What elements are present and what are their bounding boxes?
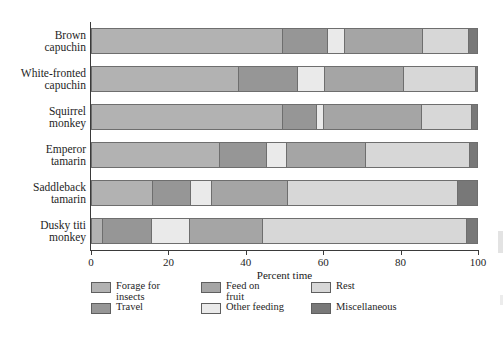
legend-swatch-forage-for-insects <box>91 282 111 293</box>
legend-item-feed-on-fruit[interactable]: Feed on fruit <box>201 281 311 302</box>
stacked-bar-chart-figure: BrowncapuchinWhite-frontedcapuchinSquirr… <box>0 0 503 343</box>
y-axis-label-line: monkey <box>0 117 86 130</box>
x-axis-tick-label: 0 <box>71 256 111 268</box>
bar-segment-feed-on-fruit <box>211 180 287 206</box>
y-axis-label-line: tamarin <box>0 155 86 168</box>
legend-item-travel[interactable]: Travel <box>91 302 201 314</box>
bar-segment-forage-for-insects <box>91 218 102 244</box>
y-axis-label-line: White-fronted <box>0 67 86 80</box>
x-axis-tick <box>91 250 92 255</box>
legend-swatch-rest <box>311 282 331 293</box>
x-axis-tick-label: 100 <box>458 256 498 268</box>
y-axis-label-brown-capuchin: Browncapuchin <box>0 29 86 54</box>
bar-row <box>91 218 478 244</box>
legend-swatch-other-feeding <box>201 303 221 314</box>
y-axis-label-line: Brown <box>0 29 86 42</box>
bar-segment-other-feeding <box>151 218 189 244</box>
plot-area <box>91 22 478 250</box>
bar-segment-forage-for-insects <box>91 28 282 54</box>
bar-segment-feed-on-fruit <box>189 218 262 244</box>
bar-segment-travel <box>238 66 297 92</box>
y-axis-label-emperor-tamarin: Emperortamarin <box>0 143 86 168</box>
bar-segment-miscellaneous <box>471 104 478 130</box>
x-axis-tick-label: 20 <box>148 256 188 268</box>
bar-row <box>91 142 478 168</box>
y-axis-label-line: Squirrel <box>0 105 86 118</box>
bar-segment-miscellaneous <box>466 218 478 244</box>
bar-segment-travel <box>282 28 327 54</box>
bar-segment-forage-for-insects <box>91 66 238 92</box>
chart-legend: Forage for insectsFeed on fruitRestTrave… <box>91 281 421 323</box>
x-axis-tick <box>401 250 402 255</box>
x-axis-tick <box>323 250 324 255</box>
legend-item-forage-for-insects[interactable]: Forage for insects <box>91 281 201 302</box>
bar-row <box>91 180 478 206</box>
bar-segment-other-feeding <box>316 104 323 130</box>
y-axis-category-labels: BrowncapuchinWhite-frontedcapuchinSquirr… <box>0 22 86 250</box>
x-axis-tick <box>246 250 247 255</box>
bar-segment-miscellaneous <box>475 66 478 92</box>
y-axis-label-line: monkey <box>0 231 86 244</box>
legend-label-feed-on-fruit: Feed on fruit <box>226 281 260 302</box>
x-axis-tick <box>478 250 479 255</box>
y-axis-label-line: capuchin <box>0 79 86 92</box>
legend-item-rest[interactable]: Rest <box>311 281 421 293</box>
legend-label-forage-for-insects: Forage for insects <box>116 281 160 302</box>
legend-label-rest: Rest <box>336 281 355 292</box>
y-axis-label-line: tamarin <box>0 193 86 206</box>
bar-segment-rest <box>403 66 475 92</box>
legend-swatch-travel <box>91 303 111 314</box>
bar-segment-rest <box>421 104 471 130</box>
y-axis-label-line: capuchin <box>0 41 86 54</box>
bar-segment-travel <box>282 104 316 130</box>
bar-segment-travel <box>152 180 190 206</box>
x-axis-tick-label: 80 <box>381 256 421 268</box>
legend-label-travel: Travel <box>116 302 143 313</box>
legend-label-other-feeding: Other feeding <box>226 302 284 313</box>
bar-segment-forage-for-insects <box>91 104 282 130</box>
x-axis-tick <box>168 250 169 255</box>
bar-segment-travel <box>219 142 266 168</box>
x-axis-tick-label: 60 <box>303 256 343 268</box>
bar-segment-other-feeding <box>327 28 344 54</box>
legend-swatch-feed-on-fruit <box>201 282 221 293</box>
bar-segment-feed-on-fruit <box>324 66 403 92</box>
legend-item-other-feeding[interactable]: Other feeding <box>201 302 311 314</box>
bar-row <box>91 104 478 130</box>
y-axis-label-line: Saddleback <box>0 181 86 194</box>
y-axis-label-line: Dusky titi <box>0 219 86 232</box>
bar-segment-other-feeding <box>190 180 211 206</box>
bar-segment-forage-for-insects <box>91 180 152 206</box>
bar-segment-other-feeding <box>297 66 324 92</box>
bar-segment-miscellaneous <box>468 28 478 54</box>
y-axis-label-line: Emperor <box>0 143 86 156</box>
y-axis-label-dusky-titi-monkey: Dusky titimonkey <box>0 219 86 244</box>
bar-segment-rest <box>422 28 468 54</box>
bar-row <box>91 28 478 54</box>
bar-segment-forage-for-insects <box>91 142 219 168</box>
bar-segment-feed-on-fruit <box>344 28 422 54</box>
bar-row <box>91 66 478 92</box>
page-edge-artifact <box>498 231 503 253</box>
legend-label-miscellaneous: Miscellaneous <box>336 302 397 313</box>
x-axis-line <box>90 250 479 251</box>
bar-segment-travel <box>102 218 151 244</box>
y-axis-label-squirrel-monkey: Squirrelmonkey <box>0 105 86 130</box>
bar-segment-miscellaneous <box>469 142 478 168</box>
bar-segment-other-feeding <box>266 142 286 168</box>
y-axis-label-white-fronted-capuchin: White-frontedcapuchin <box>0 67 86 92</box>
bar-segment-rest <box>287 180 457 206</box>
y-axis-label-saddleback-tamarin: Saddlebacktamarin <box>0 181 86 206</box>
bar-segment-rest <box>262 218 466 244</box>
bar-segment-rest <box>365 142 469 168</box>
bar-segment-feed-on-fruit <box>286 142 365 168</box>
legend-swatch-miscellaneous <box>311 303 331 314</box>
bar-segment-miscellaneous <box>457 180 478 206</box>
legend-item-miscellaneous[interactable]: Miscellaneous <box>311 302 421 314</box>
bar-segment-feed-on-fruit <box>323 104 421 130</box>
x-axis-tick-label: 40 <box>226 256 266 268</box>
